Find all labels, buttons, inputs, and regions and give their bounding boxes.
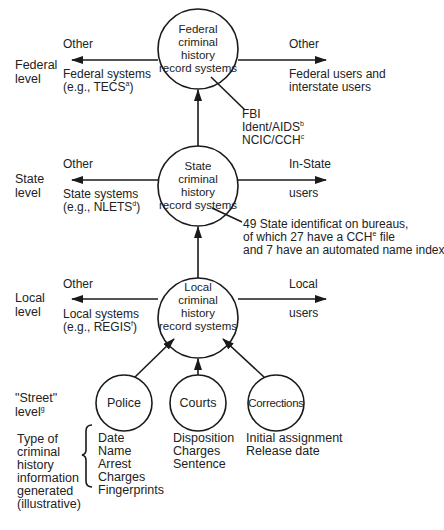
text: NCIC/CCH [242, 133, 301, 147]
street-level-label: "Street" levelg [15, 391, 57, 419]
courts-node-label: Courts [170, 397, 226, 410]
local-node-label: Local criminal history record systems [158, 281, 238, 333]
state-level-label: State level [15, 172, 44, 200]
local-right-local: Local [289, 278, 318, 291]
node-line: history [158, 49, 238, 62]
node-line: record systems [158, 62, 238, 75]
text: ) [133, 320, 137, 334]
local-level-label: Local level [15, 291, 45, 319]
node-line: Local [158, 281, 238, 294]
state-right-instate: In-State [289, 158, 331, 171]
federal-right-other: Other [289, 38, 319, 51]
callout-line: and 7 have an automated name index [243, 244, 444, 257]
federal-left-systems: Federal systems (e.g., TECSa) [63, 68, 151, 94]
state-node-label: State criminal history record systems [158, 160, 238, 212]
text: of which 27 have a CCH [243, 230, 372, 244]
text: (e.g., TECS [63, 80, 125, 94]
state-left-systems: State systems (e.g., NLETSd) [63, 188, 140, 214]
federal-left-other: Other [63, 38, 93, 51]
federal-users-line2: interstate users [289, 81, 386, 94]
local-left-other: Other [63, 278, 93, 291]
info-item: Release date [246, 445, 343, 458]
node-line: record systems [158, 199, 238, 212]
police-node-label: Police [96, 397, 152, 410]
corrections-node-label: Corrections [246, 397, 306, 410]
street-level-text: level [15, 405, 41, 419]
text: (e.g., NLETS [63, 200, 132, 214]
node-line: history [158, 186, 238, 199]
text: ) [136, 200, 140, 214]
text: Ident/AIDS [242, 120, 300, 134]
info-types-label: Type of criminal history information gen… [17, 433, 81, 511]
info-item: Sentence [173, 458, 234, 471]
state-right-users: users [289, 187, 318, 200]
node-line: Federal [158, 23, 238, 36]
local-level-label-line2: level [15, 305, 45, 319]
federal-level-label-line2: level [15, 72, 57, 86]
text: (e.g., REGIS [63, 320, 131, 334]
street-level-label-line2: levelg [15, 405, 57, 419]
node-line: criminal [158, 36, 238, 49]
node-line: criminal [158, 294, 238, 307]
courts-info-list: Disposition Charges Sentence [173, 432, 234, 471]
local-left-systems: Local systems (e.g., REGISf) [63, 308, 139, 334]
corrections-info-list: Initial assignment Release date [246, 432, 343, 458]
local-level-label-line1: Local [15, 291, 45, 305]
node-line: State [158, 160, 238, 173]
state-level-label-line1: State [15, 172, 44, 186]
local-systems-line2: (e.g., REGISf) [63, 321, 139, 334]
node-line: record systems [158, 320, 238, 333]
label-line: (illustrative) [17, 498, 81, 511]
local-right-users: users [289, 307, 318, 320]
state-systems-line2: (e.g., NLETSd) [63, 201, 140, 214]
federal-systems-line2: (e.g., TECSa) [63, 81, 151, 94]
node-line: criminal [158, 173, 238, 186]
federal-callout: FBI Ident/AIDSb NCIC/CCHc [242, 108, 304, 147]
callout-line: NCIC/CCHc [242, 134, 304, 147]
text: file [376, 230, 395, 244]
footnote-marker: b [300, 120, 304, 127]
node-line: history [158, 307, 238, 320]
state-left-other: Other [63, 158, 93, 171]
state-callout: 49 State identificat on bureaus, of whic… [243, 218, 444, 257]
federal-level-label-line1: Federal [15, 58, 57, 72]
police-info-list: Date Name Arrest Charges Fingerprints [98, 432, 164, 497]
text: FBI [242, 107, 261, 121]
info-item: Fingerprints [98, 484, 164, 497]
text: ) [129, 80, 133, 94]
footnote-marker: g [41, 405, 45, 412]
state-level-label-line2: level [15, 186, 44, 200]
street-level-label-line1: "Street" [15, 391, 57, 405]
federal-level-label: Federal level [15, 58, 57, 86]
federal-right-users: Federal users and interstate users [289, 68, 386, 94]
footnote-marker: c [301, 133, 305, 140]
federal-node-label: Federal criminal history record systems [158, 23, 238, 75]
